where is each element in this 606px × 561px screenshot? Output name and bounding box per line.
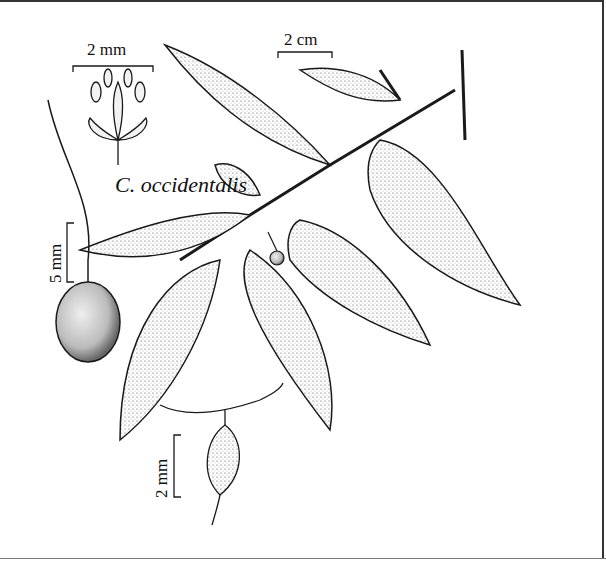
botanical-illustration: [0, 0, 606, 561]
leaf-lower-left: [120, 260, 220, 440]
scale-label-branch: 2 cm: [284, 30, 318, 50]
leaf-top-right: [300, 68, 400, 101]
species-label: C. occidentalis: [115, 172, 247, 198]
scale-label-pistillate: 2 mm: [152, 459, 172, 498]
leaf-right: [368, 140, 520, 305]
small-fruit: [270, 251, 284, 265]
scale-bar-pistillate: [174, 435, 181, 497]
flower-detail: [89, 69, 147, 165]
leaf-left: [80, 213, 250, 257]
scale-bar-fruit: [67, 223, 74, 282]
scale-bar-branch: [278, 52, 332, 58]
scale-label-fruit: 5 mm: [46, 244, 66, 283]
pistillate-flower-detail: [160, 383, 283, 525]
leaves: [80, 45, 520, 440]
leaf-top: [165, 45, 330, 165]
scale-bar-flower: [73, 66, 153, 72]
scale-label-flower: 2 mm: [87, 40, 126, 60]
